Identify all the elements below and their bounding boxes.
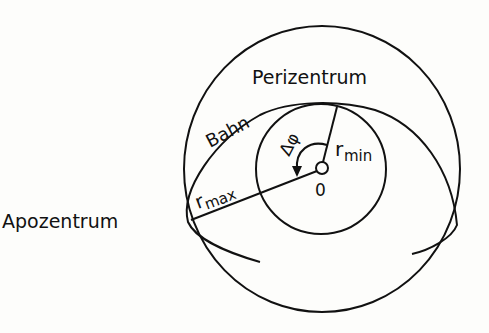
svg-text:r: r <box>335 137 344 161</box>
label-r-max: r max <box>192 178 239 217</box>
label-origin: 0 <box>315 180 326 200</box>
origin-point <box>316 162 328 174</box>
label-r-min: r min <box>335 137 372 165</box>
label-perizentrum: Perizentrum <box>252 66 367 88</box>
svg-text:min: min <box>344 147 372 165</box>
orbit-diagram: Perizentrum Apozentrum Bahn r max r min … <box>0 0 489 333</box>
label-apozentrum: Apozentrum <box>2 210 118 232</box>
label-bahn: Bahn <box>202 111 253 151</box>
arrow-head-icon <box>292 166 302 177</box>
